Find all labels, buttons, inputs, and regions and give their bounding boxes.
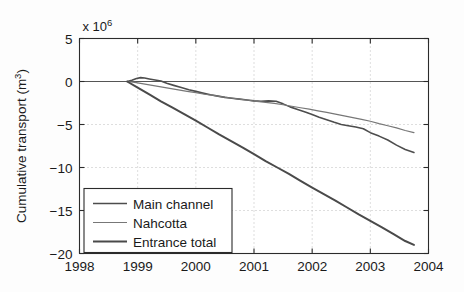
legend-label-entrance-total: Entrance total (133, 235, 216, 250)
x-axis-tick-label: 2004 (413, 259, 444, 274)
exponent-power: 6 (107, 17, 112, 28)
y-axis-tick-label: −20 (50, 247, 73, 262)
legend-label-nahcotta: Nahcotta (133, 216, 188, 231)
y-axis-exponent-label: x 106 (83, 17, 113, 34)
legend-label-main-channel: Main channel (133, 197, 213, 212)
x-axis-tick-label: 2001 (239, 259, 269, 274)
x-axis-tick-label: 1999 (123, 259, 153, 274)
y-axis-tick-label: −5 (57, 118, 72, 133)
x-axis-tick-label: 2002 (297, 259, 327, 274)
x-axis-tick-label: 2003 (355, 259, 385, 274)
y-axis-tick-label: 0 (65, 75, 73, 90)
y-axis-tick-label: −10 (50, 161, 73, 176)
y-axis-label-suffix: ) (14, 69, 29, 74)
y-axis-label: Cumulative transport (m3) (12, 69, 29, 223)
x-axis-tick-label: 2000 (181, 259, 211, 274)
cumulative-transport-line-chart: 199819992000200120022003200450−5−10−15−2… (0, 0, 464, 292)
exponent-text: x 106 (83, 17, 113, 34)
y-axis-tick-label: −15 (50, 204, 73, 219)
y-axis-tick-label: 5 (65, 32, 73, 47)
figure-canvas: 199819992000200120022003200450−5−10−15−2… (0, 0, 464, 292)
chart-legend[interactable]: Main channelNahcottaEntrance total (84, 189, 232, 253)
